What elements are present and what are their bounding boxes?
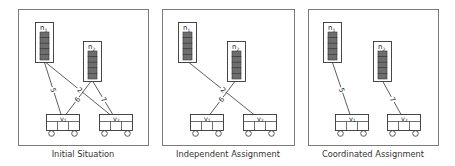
panel-initial-situation: 5267n1n2v1v2Initial Situation (19, 10, 149, 160)
wheel-icon (49, 131, 55, 137)
assignment-diagram: 5267n1n2v1v2Initial Situation 26n1n2v1v2… (0, 0, 455, 166)
wheel-icon (102, 131, 108, 137)
node-n1: n1 (179, 23, 197, 63)
task-queue-icon (88, 51, 97, 79)
wheel-icon (193, 131, 199, 137)
wheel-icon (216, 131, 222, 137)
wheel-icon (269, 131, 275, 137)
wheel-icon (246, 131, 252, 137)
node-n2: n2 (228, 42, 246, 82)
task-queue-icon (378, 51, 387, 79)
panel-coordinated-assignment: 57n1n2v1v2Coordinated Assignment (309, 10, 439, 160)
node-n1: n1 (36, 23, 54, 63)
wheel-icon (72, 131, 78, 137)
task-queue-icon (328, 32, 337, 60)
panel-caption: Independent Assignment (176, 149, 281, 159)
task-queue-icon (183, 32, 192, 60)
panel-independent-assignment: 26n1n2v1v2Independent Assignment (163, 10, 295, 160)
wheel-icon (338, 131, 344, 137)
node-n2: n2 (84, 42, 102, 82)
panel-caption: Initial Situation (52, 149, 115, 159)
task-queue-icon (40, 32, 49, 60)
panel-caption: Coordinated Assignment (322, 149, 425, 159)
wheel-icon (125, 131, 131, 137)
node-n1: n1 (324, 23, 342, 63)
node-n2: n2 (374, 42, 392, 82)
wheel-icon (413, 131, 419, 137)
wheel-icon (390, 131, 396, 137)
wheel-icon (361, 131, 367, 137)
task-queue-icon (232, 51, 241, 79)
